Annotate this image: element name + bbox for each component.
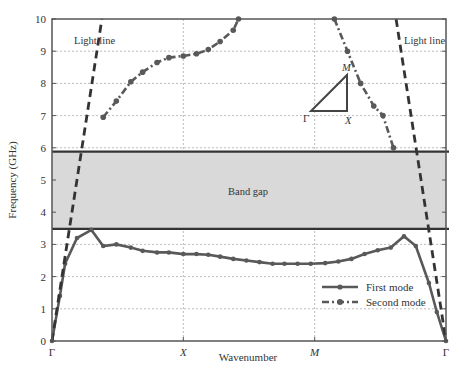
data-point [308,261,313,266]
inset-label-gamma: Γ [303,113,309,124]
y-tick-label: 2 [41,271,47,283]
inset-triangle [311,75,347,111]
data-point [218,254,223,259]
y-tick-label: 7 [41,110,47,122]
data-point [75,236,80,241]
data-point [402,234,407,239]
data-point [323,261,328,266]
data-point [230,27,236,33]
data-point [391,145,397,151]
data-point [389,245,394,250]
data-point [427,281,432,286]
y-axis-title: Frequency (GHz) [6,141,19,219]
y-tick-label: 5 [41,174,47,186]
data-point [206,252,211,257]
y-tick-label: 6 [41,142,47,154]
data-point [380,113,386,119]
band-gap-label: Band gap [228,186,268,197]
data-point [128,79,134,85]
data-point [167,250,172,255]
data-point [349,257,354,262]
data-point [345,48,351,54]
legend-second-marker [337,299,343,305]
data-point [140,69,146,75]
data-point [114,242,119,247]
data-point [140,249,145,254]
data-point [129,245,134,250]
x-tick-label: X [179,346,188,358]
data-point [100,114,106,120]
y-tick-label: 9 [41,45,47,57]
y-tick-label: 4 [41,206,47,218]
data-point [231,257,236,262]
legend-first-label: First mode [366,281,413,293]
inset-label-m: M [341,62,352,73]
y-tick-label: 10 [35,13,47,25]
x-tick-label: Γ [443,346,449,358]
data-point [194,51,200,57]
data-point [375,248,380,253]
data-point [270,261,275,266]
data-point [217,39,223,45]
data-point [89,228,94,233]
data-point [371,103,377,109]
data-point [114,98,120,104]
second-mode-curve-left [103,19,238,117]
legend-second-label: Second mode [366,296,426,308]
y-tick-label: 1 [41,303,47,315]
x-tick-label: M [309,346,320,358]
x-axis-title: Wavenumber [219,351,278,363]
data-point [358,81,364,87]
light-line-label-right: Light line [404,35,445,46]
dispersion-chart: 012345678910 ΓXMΓ Wavenumber Frequency (… [0,0,471,379]
data-point [282,261,287,266]
data-point [435,310,440,315]
legend-first-marker [337,284,342,289]
y-tick-label: 8 [41,77,47,89]
data-point [101,244,106,249]
data-point [166,55,172,61]
data-point [295,261,300,266]
data-point [413,244,418,249]
data-point [154,60,160,66]
inset-label-x: X [344,115,352,126]
data-point [181,53,187,59]
data-point [362,252,367,257]
x-tick-label: Γ [49,346,55,358]
data-point [155,250,160,255]
legend: First mode Second mode [322,281,426,308]
y-tick-label: 0 [41,335,47,347]
data-point [194,252,199,257]
data-point [244,258,249,263]
data-point [257,260,262,265]
data-point [205,47,211,53]
brillouin-zone-inset: Γ X M [303,62,352,126]
data-point [181,252,186,257]
light-line-label-left: Light line [74,35,115,46]
data-point [336,259,341,264]
y-tick-label: 3 [41,238,47,250]
